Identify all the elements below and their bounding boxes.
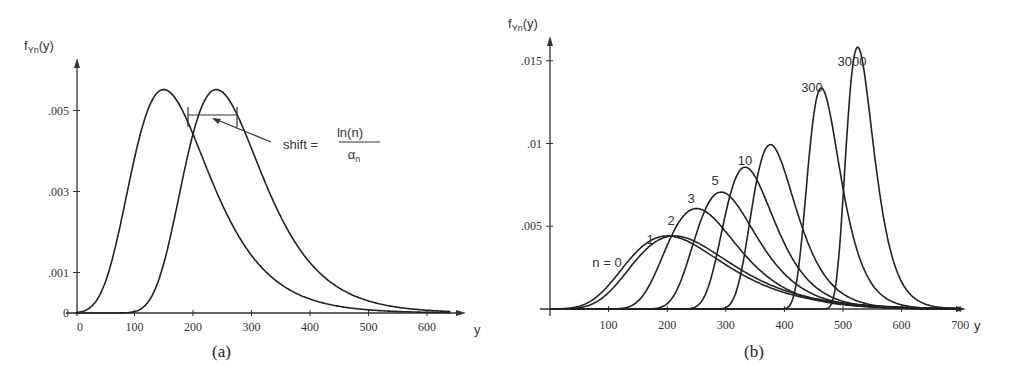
x-tick-label: 600 — [418, 320, 436, 334]
x-ticks-b: 100200300400500600700 — [600, 306, 970, 332]
arrow-head-icon — [212, 118, 221, 124]
curve-original — [76, 90, 450, 313]
series-label: 3 — [687, 191, 694, 206]
series-label: 5 — [711, 173, 718, 188]
series-label: 10 — [738, 153, 752, 168]
x-tick-label: 300 — [243, 320, 261, 334]
x-tick-label: 500 — [360, 320, 378, 334]
y-tick-label: .003 — [48, 185, 69, 199]
shift-denominator: αn — [348, 147, 361, 164]
x-tick-label: 500 — [834, 318, 852, 332]
x-tick-label: 200 — [658, 318, 676, 332]
y-tick-label: .005 — [521, 219, 542, 233]
shift-label: shift = — [283, 137, 318, 152]
caption-a: (a) — [212, 342, 231, 361]
y-tick-label: .001 — [48, 266, 69, 280]
x-tick-label: 300 — [717, 318, 735, 332]
series-label: 300 — [801, 80, 823, 95]
figure: 0.001.003.005 0100200300400500600 fYn(y)… — [0, 0, 1010, 374]
curve-shifted — [76, 90, 450, 314]
series-label: 3000 — [838, 54, 867, 69]
x-tick-label: 0 — [77, 320, 83, 334]
y-tick-label: .005 — [48, 104, 69, 118]
x-tick-label: 400 — [301, 320, 319, 334]
series-labels-b: n = 01235103003000 — [592, 54, 866, 270]
y-tick-label: .01 — [527, 137, 542, 151]
x-tick-label: 100 — [126, 320, 144, 334]
chart-panel-b: .005.01.015 100200300400500600700 n = 01… — [508, 16, 981, 361]
chart-panel-a: 0.001.003.005 0100200300400500600 fYn(y)… — [24, 38, 481, 361]
curve-n-10 — [550, 145, 960, 309]
x-axis-label-b: y — [974, 318, 981, 333]
curve-n-0 — [550, 236, 960, 309]
y-axis-arrow-a — [74, 58, 80, 68]
x-tick-label: 600 — [893, 318, 911, 332]
series-label: n = 0 — [592, 255, 621, 270]
curves-a — [76, 90, 450, 314]
curve-n-3 — [550, 192, 960, 309]
caption-b: (b) — [744, 342, 764, 361]
shift-numerator: ln(n) — [337, 125, 363, 140]
y-tick-label: 0 — [63, 306, 69, 320]
x-tick-label: 700 — [951, 318, 969, 332]
y-ticks-b: .005.01.015 — [521, 54, 553, 234]
y-axis-arrow-b — [547, 36, 553, 46]
series-label: 2 — [667, 213, 674, 228]
x-tick-label: 200 — [184, 320, 202, 334]
y-axis-label-a: fYn(y) — [24, 38, 54, 55]
y-ticks-a: 0.001.003.005 — [48, 104, 80, 321]
annotation-arrow — [215, 119, 271, 142]
x-axis-arrow-a — [456, 310, 466, 316]
x-axis-label-a: y — [474, 322, 481, 337]
curve-n-1 — [550, 236, 960, 309]
series-label: 1 — [646, 232, 653, 247]
x-tick-label: 400 — [775, 318, 793, 332]
y-axis-label-b: fYn(y) — [508, 16, 538, 33]
y-tick-label: .015 — [521, 54, 542, 68]
x-tick-label: 100 — [600, 318, 618, 332]
